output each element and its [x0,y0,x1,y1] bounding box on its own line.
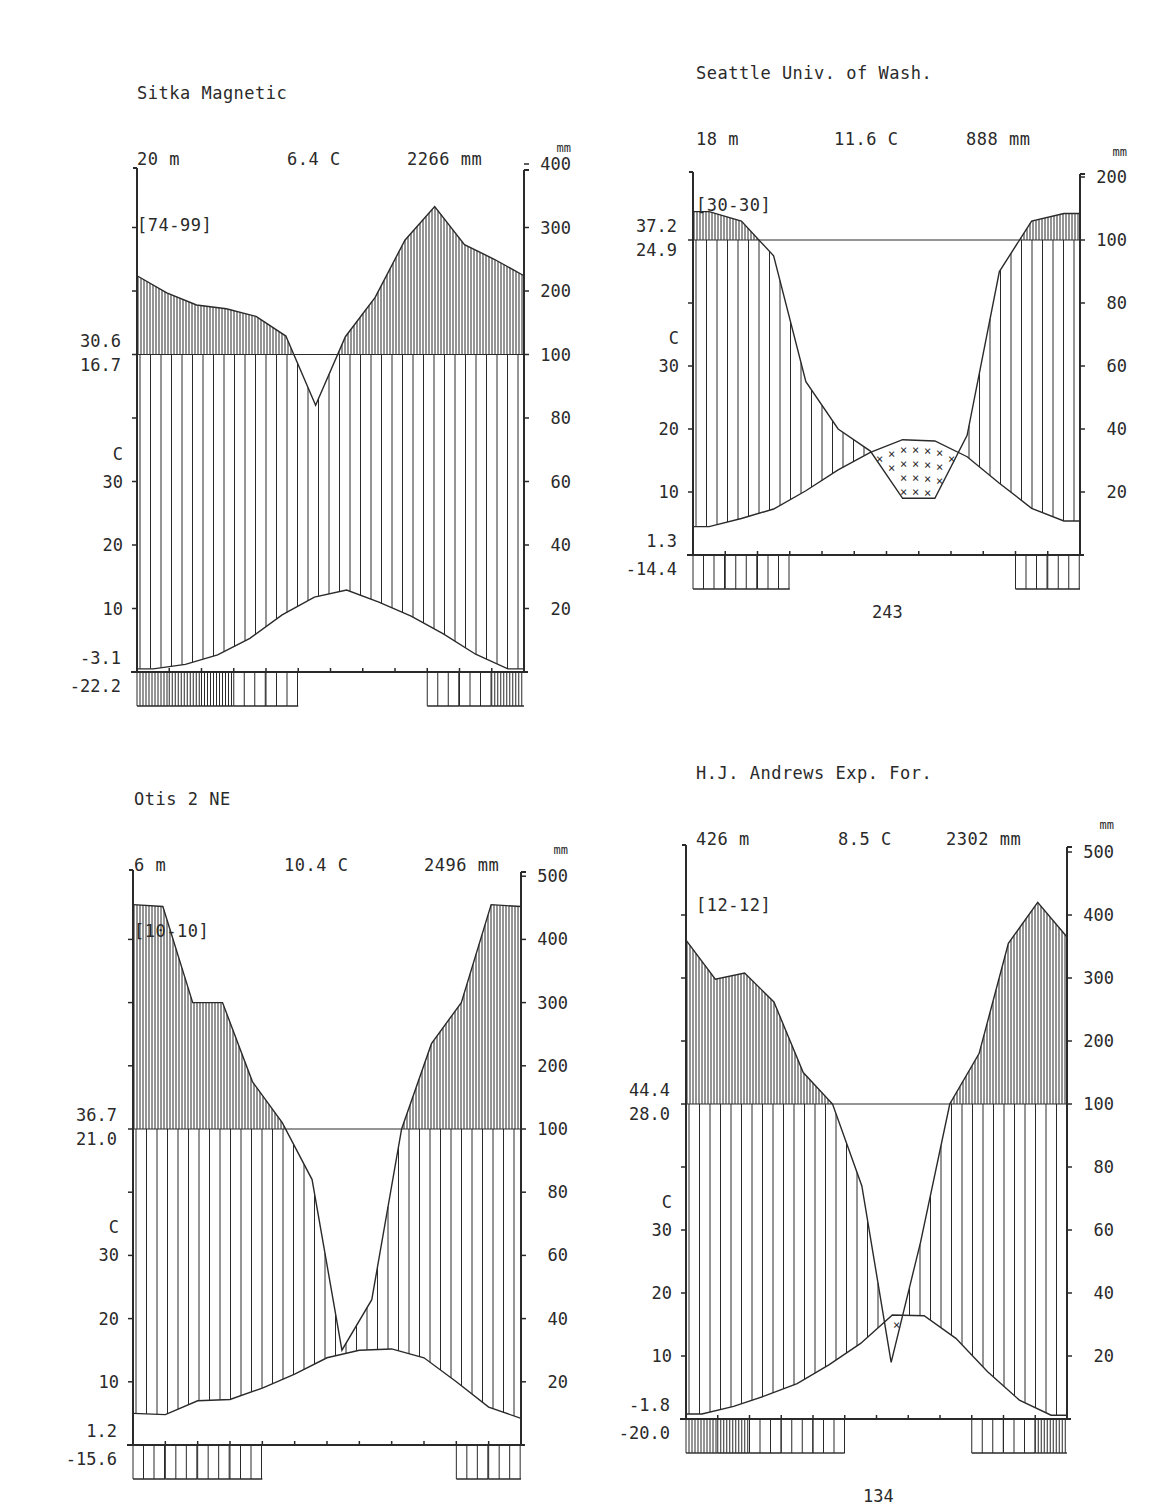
svg-text:37.2: 37.2 [636,216,677,236]
svg-text:10: 10 [652,1346,672,1366]
svg-text:36.7: 36.7 [76,1105,117,1125]
svg-text:500: 500 [1083,842,1114,862]
svg-text:×: × [924,472,931,486]
temperature-curve [686,1315,1067,1415]
svg-text:C: C [662,1192,672,1212]
svg-text:×: × [912,485,919,499]
svg-text:-1.8: -1.8 [629,1395,670,1415]
page-number: 134 [863,1486,894,1504]
climate-diagram-sitka: 302010C40030020010080604020mm30.616.7-3.… [0,0,580,720]
svg-text:1.2: 1.2 [86,1421,117,1441]
frost-months-bar [137,672,524,706]
svg-text:×: × [912,457,919,471]
chart-panel-seattle: Seattle Univ. of Wash. 18 m11.6 C888 mm … [580,0,1172,640]
svg-text:400: 400 [540,154,571,174]
svg-text:20: 20 [551,599,571,619]
svg-text:16.7: 16.7 [80,355,121,375]
svg-text:20: 20 [103,535,123,555]
svg-text:1.3: 1.3 [646,531,677,551]
svg-text:60: 60 [1094,1220,1114,1240]
svg-text:×: × [888,461,895,475]
svg-text:10: 10 [659,482,679,502]
svg-text:-15.6: -15.6 [66,1449,117,1469]
dry-season-dots: ××××××××××××××××××× [876,443,955,500]
precip-hatching [694,212,1078,527]
svg-text:×: × [936,460,943,474]
climate-diagram-seattle: ×××××××××××××××××××302010C20010080604020… [580,0,1172,640]
svg-text:60: 60 [548,1245,568,1265]
svg-text:-22.2: -22.2 [70,676,121,696]
svg-text:40: 40 [1107,419,1127,439]
svg-text:20: 20 [99,1309,119,1329]
svg-text:C: C [669,328,679,348]
precip-hatching [687,903,1065,1415]
svg-text:80: 80 [551,408,571,428]
svg-text:200: 200 [1083,1031,1114,1051]
svg-text:mm: mm [1113,145,1127,159]
svg-text:×: × [936,474,943,488]
svg-text:×: × [936,446,943,460]
svg-text:×: × [948,452,955,466]
svg-text:20: 20 [548,1372,568,1392]
precip-hatching [134,905,518,1416]
chart-panel-otis: Otis 2 NE 6 m10.4 C2496 mm [10-10] 30201… [0,720,580,1504]
svg-text:100: 100 [1083,1094,1114,1114]
svg-text:mm: mm [1100,818,1114,832]
svg-text:×: × [888,447,895,461]
svg-text:-14.4: -14.4 [626,559,677,579]
svg-text:mm: mm [554,843,568,857]
svg-text:400: 400 [1083,905,1114,925]
svg-text:10: 10 [103,599,123,619]
svg-text:30: 30 [652,1220,672,1240]
svg-text:300: 300 [1083,968,1114,988]
precipitation-curve [686,902,1067,1362]
svg-text:21.0: 21.0 [76,1129,117,1149]
svg-text:40: 40 [1094,1283,1114,1303]
svg-text:80: 80 [1107,293,1127,313]
svg-text:44.4: 44.4 [629,1080,670,1100]
svg-text:80: 80 [1094,1157,1114,1177]
svg-text:28.0: 28.0 [629,1104,670,1124]
precip-hatching [138,207,522,669]
axes: 302010C40030020010080604020mm30.616.7-3.… [70,141,571,696]
svg-text:×: × [912,471,919,485]
svg-text:×: × [924,458,931,472]
svg-text:×: × [924,444,931,458]
svg-text:100: 100 [537,1119,568,1139]
svg-text:×: × [900,471,907,485]
chart-panel-sitka: Sitka Magnetic 20 m6.4 C2266 mm [74-99] … [0,0,580,720]
svg-text:40: 40 [551,535,571,555]
svg-text:100: 100 [540,345,571,365]
svg-text:×: × [900,443,907,457]
frost-months-bar [686,1419,1067,1453]
svg-text:×: × [912,443,919,457]
svg-text:300: 300 [540,218,571,238]
chart-panel-andrews: H.J. Andrews Exp. For. 426 m8.5 C2302 mm… [580,720,1172,1504]
svg-text:100: 100 [1096,230,1127,250]
svg-text:20: 20 [1094,1346,1114,1366]
svg-text:60: 60 [1107,356,1127,376]
svg-text:C: C [109,1217,119,1237]
temperature-curve [133,1349,521,1419]
svg-text:500: 500 [537,866,568,886]
axes: 302010C50040030020010080604020mm44.428.0… [619,818,1114,1443]
svg-text:40: 40 [548,1309,568,1329]
svg-text:200: 200 [1096,167,1127,187]
svg-text:20: 20 [652,1283,672,1303]
climate-diagram-otis: 302010C50040030020010080604020mm36.721.0… [0,720,580,1504]
svg-text:×: × [900,457,907,471]
svg-text:400: 400 [537,929,568,949]
svg-text:20: 20 [659,419,679,439]
svg-text:mm: mm [557,141,571,155]
svg-text:×: × [924,486,931,500]
frost-months-bar [133,1445,521,1479]
svg-text:-20.0: -20.0 [619,1423,670,1443]
svg-text:300: 300 [537,993,568,1013]
page-number: 243 [872,602,903,622]
svg-text:C: C [113,444,123,464]
svg-text:24.9: 24.9 [636,240,677,260]
svg-text:30.6: 30.6 [80,331,121,351]
frost-months-bar [693,555,1080,589]
svg-text:30: 30 [103,472,123,492]
svg-text:60: 60 [551,472,571,492]
